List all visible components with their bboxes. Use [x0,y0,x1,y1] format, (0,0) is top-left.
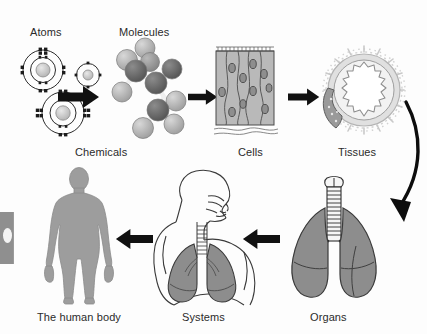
cropped-edge-element [0,212,14,264]
ball-and-stick-molecule-icon [112,38,186,139]
label-systems: Systems [182,311,225,323]
systems-figure [152,166,264,306]
label-organs: Organs [310,311,347,323]
organs-figure [282,176,386,302]
columnar-epithelium-icon [214,47,278,134]
biological-organization-diagram: Atoms Molecules Cells Tissues Chemicals … [0,0,427,334]
human-silhouette-icon [45,168,114,305]
arrow-atoms-to-molecules [58,86,100,108]
label-chemicals: Chemicals [75,146,127,158]
label-atoms: Atoms [30,26,62,38]
label-human-body: The human body [37,311,121,323]
human-body-figure [42,167,116,305]
lungs-icon [292,177,376,298]
cells-figure [212,42,280,139]
label-cells: Cells [238,146,263,158]
respiratory-system-torso-icon [154,170,255,305]
arrow-systems-to-human-body [115,228,153,250]
